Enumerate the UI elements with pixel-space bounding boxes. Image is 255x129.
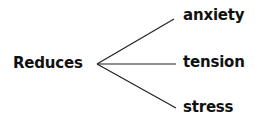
branch-label-tension: tension bbox=[183, 55, 245, 70]
line-to-anxiety bbox=[97, 19, 174, 64]
root-label: Reduces bbox=[13, 56, 83, 71]
branch-label-stress: stress bbox=[183, 100, 233, 115]
line-to-stress bbox=[97, 64, 176, 108]
branch-label-anxiety: anxiety bbox=[183, 8, 244, 23]
